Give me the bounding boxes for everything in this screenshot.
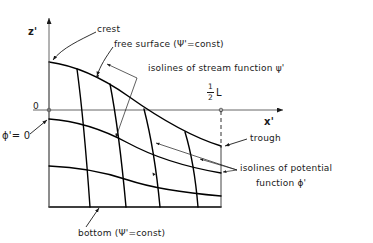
phi-zero-label: ϕ'= 0 xyxy=(2,130,30,142)
equipotential-2 xyxy=(110,84,126,207)
stream-isolines-label: isolines of stream function ψ' xyxy=(148,63,284,73)
trough-label: trough xyxy=(250,133,281,143)
trough-leader xyxy=(225,139,247,146)
x-axis-label: x' xyxy=(264,116,274,128)
streamline-1 xyxy=(49,119,221,173)
half-wavelength-label: 1 2 L xyxy=(207,83,222,101)
equipotential-1 xyxy=(77,69,90,207)
stream-isoline-leader-2 xyxy=(116,78,137,137)
free-surface-label: free surface (Ψ'=const) xyxy=(114,39,224,49)
crest-leader xyxy=(53,32,96,60)
phi-zero-leader xyxy=(30,120,47,134)
potential-isolines-label-line2: function ϕ' xyxy=(256,178,306,188)
wave-flow-net-figure: z' x' 0 crest free surface (Ψ'=const) is… xyxy=(0,0,373,243)
bottom-label: bottom (Ψ'=const) xyxy=(78,228,165,238)
leader-line-group xyxy=(30,32,247,227)
bottom-leader xyxy=(86,208,99,227)
potential-isoline-leader-1 xyxy=(156,143,237,170)
fraction-denominator: 2 xyxy=(207,94,214,102)
z-axis-label: z' xyxy=(28,26,37,38)
figure-canvas xyxy=(0,0,373,243)
potential-isolines-label-line1: isolines of potential xyxy=(240,163,332,173)
equipotential-4 xyxy=(185,132,198,207)
crest-label: crest xyxy=(97,24,120,34)
equipotential-group xyxy=(77,69,198,207)
fraction-numerator: 1 xyxy=(207,83,214,91)
origin-label: 0 xyxy=(33,101,39,111)
tick-streamline-2 xyxy=(153,173,156,176)
potential-isoline-leader-2 xyxy=(200,159,237,170)
curve-tick-group xyxy=(96,75,156,176)
free-surface-leader xyxy=(97,47,113,76)
wavelength-symbol: L xyxy=(216,87,222,98)
free-surface-curve xyxy=(49,62,221,146)
potential-isoline-leader-3 xyxy=(223,170,237,172)
half-wavelength-fraction: 1 2 xyxy=(207,83,214,101)
equipotential-3 xyxy=(144,109,160,207)
stream-isoline-leader-1 xyxy=(107,64,137,78)
